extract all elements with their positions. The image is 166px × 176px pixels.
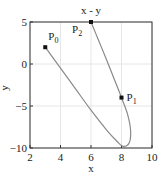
x-axis-label: x bbox=[88, 162, 94, 174]
point-label-p1: P1 bbox=[127, 91, 137, 106]
y-tick-label: 0 bbox=[22, 58, 28, 70]
y-axis-label: y bbox=[0, 85, 10, 91]
point-label-p2: P2 bbox=[72, 23, 82, 38]
x-tick-label: 2 bbox=[27, 151, 33, 163]
point-label-p0: P0 bbox=[48, 30, 58, 45]
x-tick-label: 8 bbox=[119, 151, 125, 163]
y-tick-label: 5 bbox=[22, 16, 28, 28]
y-tick-label: −10 bbox=[10, 142, 28, 154]
chart-title: x - y bbox=[81, 4, 102, 16]
point-marker-p1 bbox=[120, 96, 124, 100]
y-tick-label: −5 bbox=[15, 100, 27, 112]
x-tick-label: 10 bbox=[147, 151, 159, 163]
chart: 246810 50−5−10 P0P1P2 x - y x y bbox=[0, 0, 166, 176]
point-marker-p2 bbox=[89, 20, 93, 24]
x-tick-label: 4 bbox=[58, 151, 64, 163]
point-marker-p0 bbox=[43, 45, 47, 49]
